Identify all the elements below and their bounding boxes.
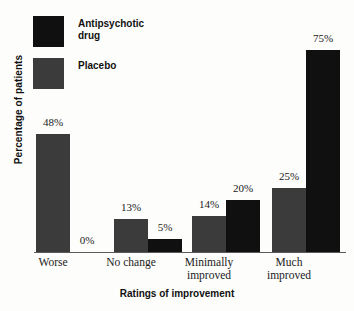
bar-group-much-improved: 25% 75% <box>272 46 340 252</box>
category-label-much-improved: Much improved <box>234 256 344 282</box>
bar-value-nochange-drug: 5% <box>143 221 187 233</box>
bar-wrap-minimal-placebo: 14% <box>192 46 226 252</box>
bar-minimal-placebo <box>192 216 226 252</box>
bar-nochange-drug <box>148 239 182 252</box>
x-axis-line <box>34 252 346 253</box>
legend-item-antipsychotic-drug: Antipsychotic drug <box>33 16 162 47</box>
bar-wrap-much-placebo: 25% <box>272 46 306 252</box>
category-label-much-improved-line1: Much <box>234 256 344 269</box>
bar-wrap-worse-drug: 0% <box>70 46 104 252</box>
bar-wrap-nochange-drug: 5% <box>148 46 182 252</box>
bar-group-minimally-improved: 14% 20% <box>192 46 260 252</box>
bar-value-nochange-placebo: 13% <box>109 201 153 213</box>
bar-chart: Percentage of patients Antipsychotic dru… <box>0 0 354 311</box>
bar-value-minimal-drug: 20% <box>221 182 265 194</box>
bar-group-no-change: 13% 5% <box>114 46 182 252</box>
bar-value-minimal-placebo: 14% <box>187 198 231 210</box>
bar-group-worse: 48% 0% <box>36 46 104 252</box>
x-axis-title: Ratings of improvement <box>0 288 354 299</box>
bar-much-drug <box>306 50 340 252</box>
plot-area: 48% 0% 13% 5% 14% <box>34 46 346 252</box>
legend-label-antipsychotic-drug: Antipsychotic drug <box>78 18 162 41</box>
bar-much-placebo <box>272 188 306 252</box>
legend-swatch-antipsychotic-drug <box>33 16 64 47</box>
bar-value-much-drug: 75% <box>301 32 345 44</box>
bar-wrap-much-drug: 75% <box>306 46 340 252</box>
y-axis-title: Percentage of patients <box>13 30 24 190</box>
bar-value-much-placebo: 25% <box>267 170 311 182</box>
category-label-much-improved-line2: improved <box>234 269 344 282</box>
bar-wrap-minimal-drug: 20% <box>226 46 260 252</box>
bar-minimal-drug <box>226 200 260 252</box>
bar-value-worse-placebo: 48% <box>31 116 75 128</box>
bar-value-worse-drug: 0% <box>65 234 109 246</box>
bar-wrap-worse-placebo: 48% <box>36 46 70 252</box>
